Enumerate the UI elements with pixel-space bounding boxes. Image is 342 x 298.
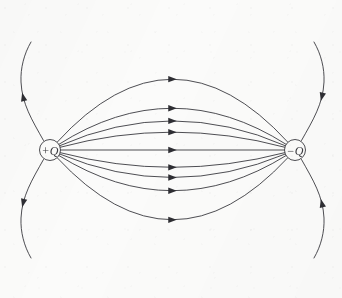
arc-upper-1-arrowhead: [168, 129, 177, 135]
connecting-field-lines-group: [57, 76, 288, 223]
positive-charge: +Q: [40, 140, 61, 161]
arc-lower-3-arrowhead: [168, 188, 177, 194]
outer-line-upper-left: [21, 42, 44, 141]
negative-charge-label: −Q: [287, 144, 304, 158]
field-line-diagram: +Q−Q: [0, 0, 342, 298]
positive-charge-label: +Q: [42, 144, 59, 158]
outer-line-lower-left-arrowhead: [21, 198, 27, 207]
outer-line-upper-left-arrowhead: [21, 93, 27, 102]
arc-center-arrowhead: [168, 147, 177, 153]
outer-line-lower-right: [302, 160, 325, 259]
arc-lower-4-arrowhead: [168, 217, 177, 223]
arc-upper-3: [59, 108, 286, 144]
figure-canvas: +Q−Q: [0, 0, 342, 298]
arc-upper-2-arrowhead: [168, 118, 177, 124]
outer-line-upper-right: [302, 42, 325, 141]
outer-line-lower-left: [21, 160, 44, 259]
outer-line-upper-right-arrowhead: [320, 92, 326, 101]
arc-lower-1: [60, 153, 285, 168]
arc-lower-3: [59, 156, 286, 191]
negative-charge: −Q: [285, 140, 306, 161]
arc-upper-1: [60, 132, 285, 147]
outer-line-lower-right-arrowhead: [320, 199, 326, 208]
arc-upper-3-arrowhead: [168, 105, 177, 111]
arc-upper-4-arrowhead: [168, 76, 177, 82]
arc-lower-2-arrowhead: [168, 174, 177, 180]
arc-lower-1-arrowhead: [168, 164, 177, 170]
